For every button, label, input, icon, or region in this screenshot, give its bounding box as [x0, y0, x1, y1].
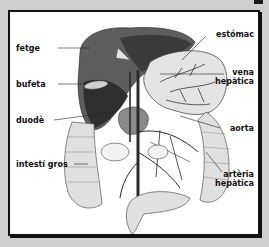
label-duode: duodè [16, 116, 44, 125]
label-hepatica-2: hepàtica [215, 179, 254, 188]
diagram-frame: fetge bufeta duodè intestí gros estómac … [8, 10, 260, 236]
colon-descending [198, 112, 229, 202]
colon-sigmoid [126, 192, 190, 234]
corner-mark [254, 0, 263, 4]
label-intesti-gros: intestí gros [16, 160, 68, 169]
label-fetge: fetge [16, 44, 40, 53]
label-vena: vena [232, 68, 254, 77]
label-arteria: artèria [223, 170, 254, 179]
colon-ascending [65, 122, 102, 208]
label-hepatica-1: hepàtica [215, 77, 254, 86]
label-estomac: estómac [216, 30, 254, 39]
label-bufeta: bufeta [16, 80, 46, 89]
label-aorta: aorta [230, 124, 254, 133]
anatomy-illustration [10, 12, 258, 234]
